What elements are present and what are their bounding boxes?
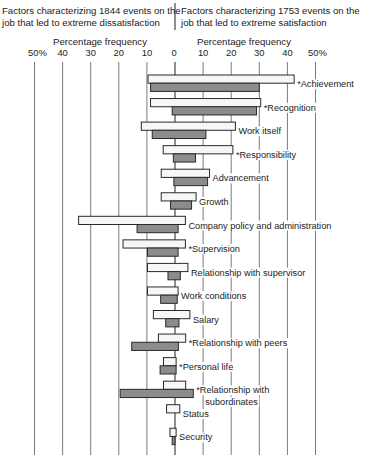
bar-gray-growth — [171, 201, 192, 209]
bar-white-salary — [153, 311, 190, 319]
right-header-line-1: Factors characterizing 1753 events on th… — [181, 5, 360, 16]
factor-label-recognition: *Recognition — [264, 103, 316, 113]
factor-label-relationship-with-peers: *Relationship with peers — [189, 338, 288, 348]
bar-white-company-policy-and-administration — [79, 216, 186, 224]
tick-label-left-20: 20 — [114, 47, 124, 58]
tick-label-zero: 0 — [171, 47, 176, 58]
bar-white-status — [167, 405, 180, 413]
left-header-line-2: job that led to extreme dissatisfaction — [1, 17, 160, 28]
bar-white-relationship-with-subordinates — [163, 381, 185, 389]
tick-label-left-50: 50% — [28, 47, 47, 58]
tick-labels: 50%403020101020304050%0 — [28, 47, 327, 58]
factor-label-growth: Growth — [199, 197, 229, 207]
bar-white-supervision — [123, 240, 185, 248]
tick-label-right-10: 10 — [198, 47, 208, 58]
bar-white-personal-life — [163, 358, 176, 366]
bar-gray-personal-life — [160, 366, 176, 374]
bar-gray-responsibility — [173, 154, 195, 162]
factor-label-responsibility: *Responsibility — [236, 150, 297, 160]
left-header-line-1: Factors characterizing 1844 events on th… — [2, 5, 181, 16]
bar-white-recognition — [151, 99, 261, 107]
factor-label-advancement: Advancement — [213, 173, 270, 183]
factor-label-status: Status — [183, 409, 209, 419]
factor-label-work-itself: Work itself — [238, 126, 281, 136]
bar-gray-relationship-with-peers — [132, 342, 179, 350]
bar-gray-relationship-with-supervisor — [168, 272, 180, 280]
bar-gray-supervision — [147, 248, 178, 256]
factor-label-company-policy-and-administration: Company policy and administration — [188, 221, 331, 231]
bar-gray-security — [172, 436, 175, 444]
chart-headers: Factors characterizing 1844 events on th… — [1, 5, 360, 47]
tick-label-right-20: 20 — [226, 47, 236, 58]
bar-gray-recognition — [172, 107, 256, 115]
factor-label-relationship-with-subordinates: *Relationship with — [196, 385, 269, 395]
factor-label-work-conditions: Work conditions — [181, 291, 247, 301]
left-axis-label: Percentage frequency — [53, 36, 147, 47]
right-header-line-2: job that led to extreme satisfaction — [180, 17, 327, 28]
bar-gray-salary — [166, 319, 179, 327]
bar-white-security — [170, 428, 176, 436]
bar-white-work-conditions — [147, 287, 178, 295]
bar-gray-work-conditions — [161, 295, 178, 303]
factor-label-supervision: *Supervision — [188, 244, 240, 254]
tick-label-right-50: 50% — [308, 47, 327, 58]
factor-label-achievement: *Achievement — [297, 79, 354, 89]
bar-gray-relationship-with-subordinates — [120, 389, 193, 397]
tick-label-left-10: 10 — [142, 47, 152, 58]
bar-white-achievement — [148, 75, 294, 83]
bar-white-responsibility — [163, 146, 233, 154]
bar-gray-advancement — [174, 177, 208, 185]
factor-label-personal-life: *Personal life — [179, 362, 233, 372]
factor-label-security: Security — [179, 432, 213, 442]
bar-white-work-itself — [141, 122, 235, 130]
factor-label-relationship-with-subordinates-line-2: subordinates — [205, 397, 258, 407]
bar-white-growth — [161, 193, 196, 201]
bar-white-advancement — [161, 169, 209, 177]
right-axis-label: Percentage frequency — [197, 36, 291, 47]
bar-gray-company-policy-and-administration — [137, 225, 178, 233]
bar-gray-work-itself — [152, 130, 206, 138]
tick-label-right-40: 40 — [282, 47, 292, 58]
factor-label-relationship-with-supervisor: Relationship with supervisor — [191, 268, 305, 278]
tick-label-right-30: 30 — [254, 47, 264, 58]
tick-label-left-40: 40 — [57, 47, 67, 58]
bar-white-relationship-with-peers — [158, 334, 185, 342]
bar-white-relationship-with-supervisor — [147, 263, 187, 271]
factor-label-salary: Salary — [193, 315, 219, 325]
bar-gray-achievement — [151, 83, 260, 91]
herzberg-factor-chart: Factors characterizing 1844 events on th… — [0, 0, 368, 468]
tick-label-left-30: 30 — [85, 47, 95, 58]
